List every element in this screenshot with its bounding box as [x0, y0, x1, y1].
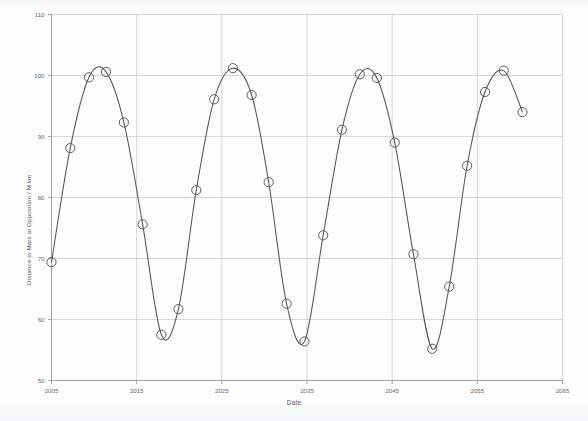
x-axis-title: Date	[0, 399, 588, 406]
x-tick-label: 2005	[35, 387, 69, 394]
y-tick-label: 110	[23, 11, 45, 18]
chart-plot-area	[0, 0, 588, 421]
y-axis-title-wrap: Distance to Mars at Opposition / M km	[12, 135, 26, 285]
y-tick-label: 50	[23, 377, 45, 384]
x-tick-label: 2045	[375, 387, 409, 394]
data-series-line	[52, 67, 523, 349]
y-axis-title: Distance to Mars at Opposition / M km	[25, 175, 32, 285]
y-tick-label: 60	[23, 316, 45, 323]
grid-lines	[52, 15, 563, 381]
y-tick-label: 100	[23, 72, 45, 79]
x-tick-label: 2025	[205, 387, 239, 394]
data-point-markers	[47, 64, 527, 354]
x-tick-label: 2015	[120, 387, 154, 394]
x-tick-label: 2055	[460, 387, 494, 394]
x-tick-label: 2035	[290, 387, 324, 394]
chart-axes	[48, 15, 563, 385]
x-tick-label: 2065	[546, 387, 580, 394]
mars-opposition-distance-chart: 5060708090100110 20052015202520352045205…	[0, 0, 588, 421]
